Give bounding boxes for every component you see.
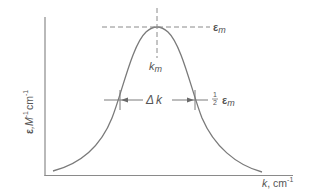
delta-k-right-arrowhead [187,98,194,103]
svg-text:εm: εm [222,94,235,108]
half-max-label: 1 2 εm [212,91,235,108]
x-axis-label: k, cm-1 [262,176,293,189]
absorption-band-diagram: εm km Δk 1 2 εm k, cm-1 ε,M-1cm-1 [0,0,310,196]
peak-position-label: km [149,60,163,74]
svg-text:2: 2 [213,99,217,106]
y-axis-label: ε,M-1cm-1 [22,90,35,134]
peak-height-label: εm [213,21,226,35]
bandwidth-label: Δk [145,93,163,107]
svg-text:1: 1 [213,91,217,98]
delta-k-left-arrowhead [121,98,128,103]
